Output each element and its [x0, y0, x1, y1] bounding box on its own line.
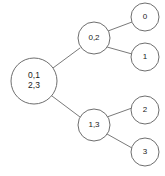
tree-node-internal-top[interactable]: 0,2	[78, 22, 110, 54]
tree-edge	[107, 47, 132, 54]
tree-node-leaf-0[interactable]: 0	[131, 3, 159, 31]
node-label-root-line2: 2,3	[28, 80, 40, 90]
node-label-internal-top-line1: 0,2	[88, 33, 100, 42]
tree-diagram: 0,12,30,21,30123	[0, 0, 165, 176]
node-label-internal-bottom-line1: 1,3	[88, 120, 100, 129]
tree-node-leaf-3[interactable]: 3	[131, 138, 159, 166]
tree-diagram-canvas: 0,12,30,21,30123	[0, 0, 165, 176]
node-label-leaf-2-line1: 2	[143, 105, 148, 114]
node-layer: 0,12,30,21,30123	[11, 3, 159, 166]
node-label-leaf-0-line1: 0	[143, 12, 148, 21]
tree-node-leaf-2[interactable]: 2	[131, 96, 159, 124]
node-label-root-line1: 0,1	[28, 70, 40, 80]
tree-edge	[53, 48, 80, 68]
node-label-leaf-1-line1: 1	[143, 52, 148, 61]
tree-edge	[108, 22, 132, 31]
tree-edge	[52, 96, 80, 117]
tree-edge	[107, 134, 132, 148]
tree-node-internal-bottom[interactable]: 1,3	[78, 109, 110, 141]
tree-edge	[107, 108, 132, 117]
node-label-leaf-3-line1: 3	[143, 147, 148, 156]
tree-node-leaf-1[interactable]: 1	[131, 43, 159, 71]
tree-node-root[interactable]: 0,12,3	[11, 58, 57, 104]
